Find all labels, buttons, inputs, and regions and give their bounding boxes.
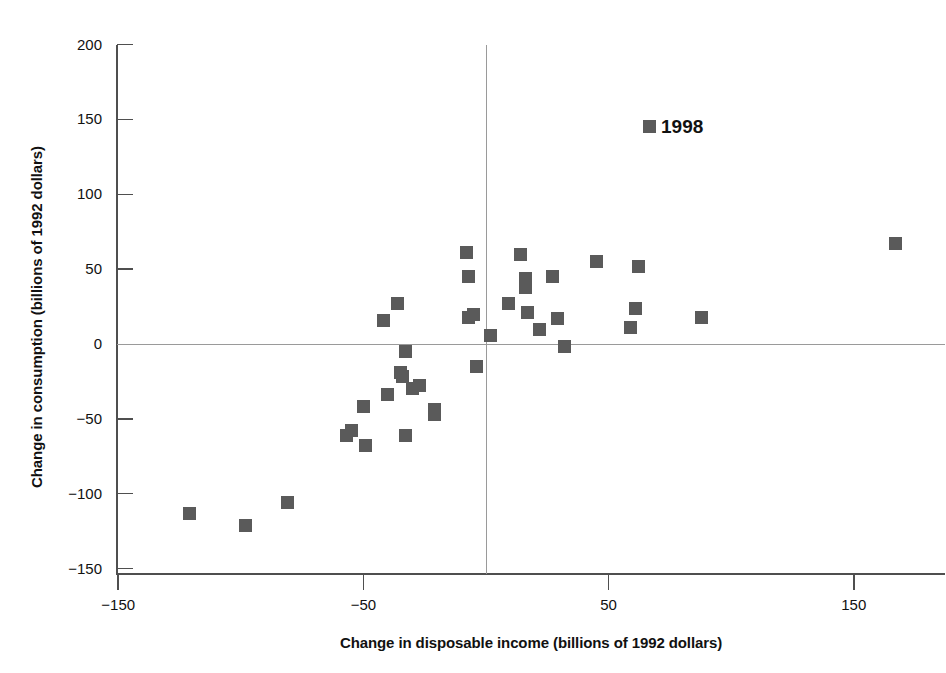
- data-point: [546, 270, 559, 283]
- data-point: [514, 248, 527, 261]
- data-point: [632, 260, 645, 273]
- plot-area: [0, 0, 946, 673]
- data-point: [521, 306, 534, 319]
- data-point: [377, 314, 390, 327]
- data-point: [629, 302, 642, 315]
- data-point: [345, 424, 358, 437]
- data-point: [470, 360, 483, 373]
- data-point: [551, 312, 564, 325]
- data-point: [519, 281, 532, 294]
- data-point: [484, 329, 497, 342]
- data-point: [558, 340, 571, 353]
- data-point: [462, 270, 475, 283]
- data-point: [695, 311, 708, 324]
- data-point: [239, 519, 252, 532]
- data-point: [413, 379, 426, 392]
- data-point: [183, 507, 196, 520]
- data-point: [889, 237, 902, 250]
- data-point: [533, 323, 546, 336]
- data-point: [467, 308, 480, 321]
- data-point: [624, 321, 637, 334]
- legend-label-1998: 1998: [661, 117, 703, 136]
- data-point: [357, 400, 370, 413]
- scatter-plot-figure: Change in consumption (billions of 1992 …: [0, 0, 946, 673]
- legend-swatch-1998: [643, 120, 656, 133]
- data-point: [359, 439, 372, 452]
- legend: 1998: [643, 117, 703, 136]
- data-point: [399, 345, 412, 358]
- data-point: [502, 297, 515, 310]
- data-point: [399, 429, 412, 442]
- data-point: [428, 408, 441, 421]
- data-point: [391, 297, 404, 310]
- data-point: [381, 388, 394, 401]
- data-point: [460, 246, 473, 259]
- data-point: [281, 496, 294, 509]
- data-point: [590, 255, 603, 268]
